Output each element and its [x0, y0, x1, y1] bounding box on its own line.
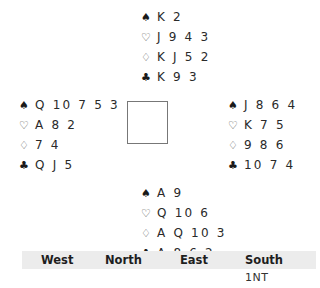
north-spades: K 2	[157, 7, 183, 27]
west-diamonds-row: ♢7 4	[17, 135, 61, 155]
spade-icon: ♠	[139, 8, 153, 28]
spade-icon: ♠	[139, 184, 153, 204]
west-hearts-row: ♡A 8 2	[17, 115, 77, 135]
west-spades: Q 10 7 5 3	[35, 95, 120, 115]
diamond-icon: ♢	[139, 48, 153, 68]
diamond-icon: ♢	[17, 136, 31, 156]
club-icon: ♣	[139, 68, 153, 88]
west-clubs-row: ♣Q J 5	[17, 155, 74, 175]
north-hearts-row: ♡J 9 4 3	[139, 27, 210, 47]
heart-icon: ♡	[139, 28, 153, 48]
west-clubs: Q J 5	[35, 155, 74, 175]
west-diamonds: 7 4	[35, 135, 61, 155]
west-spades-row: ♠Q 10 7 5 3	[17, 95, 120, 115]
bidding-header-east: East	[180, 251, 208, 269]
north-diamonds-row: ♢K J 5 2	[139, 47, 211, 67]
north-hearts: J 9 4 3	[157, 27, 210, 47]
west-hearts: A 8 2	[35, 115, 77, 135]
club-icon: ♣	[226, 156, 240, 176]
south-hearts-row: ♡Q 10 6	[139, 203, 210, 223]
east-spades: J 8 6 4	[244, 95, 297, 115]
heart-icon: ♡	[17, 116, 31, 136]
bidding-header-south: South	[245, 251, 283, 269]
spade-icon: ♠	[17, 96, 31, 116]
east-hearts: K 7 5	[244, 115, 286, 135]
bidding-header-north: North	[105, 251, 142, 269]
spade-icon: ♠	[226, 96, 240, 116]
south-diamonds: A Q 10 3	[157, 223, 227, 243]
table-square	[127, 101, 168, 144]
diamond-icon: ♢	[139, 224, 153, 244]
bid-south: 1NT	[245, 270, 268, 286]
bidding-header-west: West	[41, 251, 73, 269]
diamond-icon: ♢	[226, 136, 240, 156]
east-clubs: 10 7 4	[244, 155, 295, 175]
club-icon: ♣	[17, 156, 31, 176]
south-diamonds-row: ♢A Q 10 3	[139, 223, 227, 243]
east-clubs-row: ♣10 7 4	[226, 155, 295, 175]
heart-icon: ♡	[139, 204, 153, 224]
east-diamonds-row: ♢9 8 6	[226, 135, 286, 155]
north-spades-row: ♠K 2	[139, 7, 183, 27]
north-clubs: K 9 3	[157, 67, 199, 87]
east-diamonds: 9 8 6	[244, 135, 286, 155]
east-spades-row: ♠J 8 6 4	[226, 95, 297, 115]
north-diamonds: K J 5 2	[157, 47, 211, 67]
heart-icon: ♡	[226, 116, 240, 136]
north-clubs-row: ♣K 9 3	[139, 67, 199, 87]
south-hearts: Q 10 6	[157, 203, 210, 223]
east-hearts-row: ♡K 7 5	[226, 115, 286, 135]
south-spades: A 9	[157, 183, 183, 203]
south-spades-row: ♠A 9	[139, 183, 183, 203]
